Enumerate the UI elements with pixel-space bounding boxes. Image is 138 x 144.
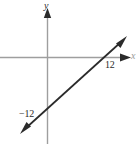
coordinate-plane-figure: 12 −12 y x bbox=[0, 0, 138, 144]
line-arrowhead-upper-right-icon bbox=[116, 36, 127, 48]
y-axis-label: y bbox=[44, 1, 48, 11]
line-arrowhead-lower-left-icon bbox=[20, 122, 31, 134]
x-axis-label: x bbox=[131, 51, 135, 61]
plotted-line bbox=[26, 42, 121, 128]
graph-canvas bbox=[0, 0, 138, 144]
x-intercept-tick-label: 12 bbox=[105, 60, 115, 70]
x-axis-arrowhead-icon bbox=[120, 54, 131, 62]
y-intercept-tick-label: −12 bbox=[19, 109, 34, 119]
